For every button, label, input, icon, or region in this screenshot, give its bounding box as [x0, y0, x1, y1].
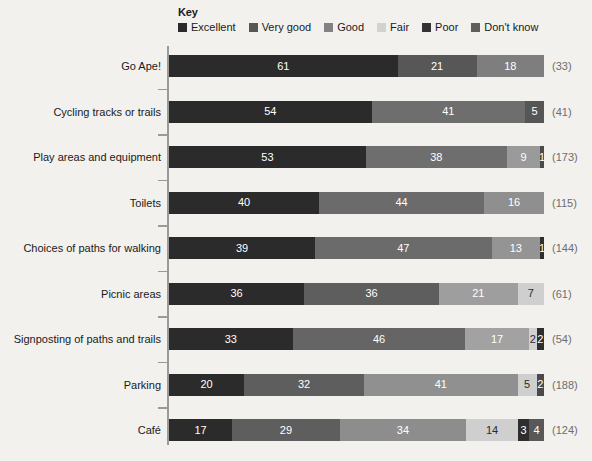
base-count: (173) [552, 151, 578, 163]
base-count: (61) [552, 288, 572, 300]
bar-segment: 36 [169, 283, 304, 305]
bar-segment: 3 [518, 419, 529, 441]
stacked-bar: 404416 [169, 192, 544, 214]
axis-tick [158, 89, 167, 91]
legend-item-label: Excellent [191, 22, 236, 33]
bar-segment-value: 38 [430, 152, 442, 163]
bar-row: Play areas and equipment533891(173) [0, 146, 592, 168]
bar-segment-value: 1 [540, 243, 544, 254]
bar-row: Picnic areas3636217(61) [0, 283, 592, 305]
legend-item-label: Poor [435, 22, 458, 33]
bar-segment-value: 41 [442, 106, 454, 117]
category-label: Signposting of paths and trails [0, 333, 161, 345]
legend-swatch-icon [471, 23, 480, 32]
axis-tick [158, 316, 167, 318]
bar-segment-value: 41 [435, 379, 447, 390]
category-label: Cycling tracks or trails [0, 106, 161, 118]
bar-segment: 53 [169, 146, 366, 168]
bar-segment: 41 [372, 101, 526, 123]
bar-row: Go Ape!612118(33) [0, 55, 592, 77]
bar-segment: 18 [477, 55, 545, 77]
bar-segment: 21 [398, 55, 477, 77]
bar-row: Signposting of paths and trails33461722(… [0, 328, 592, 350]
legend-swatch-icon [249, 23, 258, 32]
bar-segment-value: 16 [508, 197, 520, 208]
bar-segment-value: 20 [200, 379, 212, 390]
bar-segment: 17 [465, 328, 529, 350]
bar-segment: 9 [507, 146, 540, 168]
bar-segment-value: 17 [194, 425, 206, 436]
legend-item-label: Good [337, 22, 364, 33]
bar-segment: 2 [537, 328, 545, 350]
bar-row: Café1729341434(124) [0, 419, 592, 441]
base-count: (54) [552, 333, 572, 345]
bar-segment: 4 [529, 419, 544, 441]
category-label: Play areas and equipment [0, 151, 161, 163]
bar-segment-value: 29 [280, 425, 292, 436]
legend-item-dont_know: Don't know [471, 22, 538, 33]
axis-tick [158, 180, 167, 182]
bar-segment: 5 [525, 101, 544, 123]
stacked-bar: 3947131 [169, 237, 544, 259]
bar-segment: 16 [484, 192, 544, 214]
axis-tick [158, 271, 167, 273]
bar-segment-value: 21 [431, 61, 443, 72]
category-label: Choices of paths for walking [0, 242, 161, 254]
stacked-bar-chart: Key ExcellentVery goodGoodFairPoorDon't … [0, 0, 592, 461]
legend-item-label: Fair [390, 22, 409, 33]
bar-segment-value: 17 [491, 334, 503, 345]
legend-item-fair: Fair [377, 22, 409, 33]
bar-segment-value: 5 [532, 106, 538, 117]
bar-segment-value: 7 [528, 288, 534, 299]
bar-row: Parking20324152(188) [0, 374, 592, 396]
bar-segment: 39 [169, 237, 315, 259]
bar-segment: 14 [466, 419, 518, 441]
base-count: (115) [552, 197, 577, 209]
stacked-bar: 533891 [169, 146, 544, 168]
bar-segment: 40 [169, 192, 319, 214]
base-count: (33) [552, 60, 572, 72]
legend-item-label: Very good [262, 22, 312, 33]
legend-item-good: Good [324, 22, 364, 33]
bar-segment-value: 2 [530, 334, 536, 345]
category-label: Toilets [0, 197, 161, 209]
bar-segment: 17 [169, 419, 232, 441]
bar-segment: 2 [537, 374, 545, 396]
stacked-bar: 3636217 [169, 283, 544, 305]
bar-segment-value: 46 [373, 334, 385, 345]
bar-segment-value: 33 [225, 334, 237, 345]
bar-segment: 7 [518, 283, 544, 305]
bar-segment: 32 [244, 374, 364, 396]
bar-segment: 20 [169, 374, 244, 396]
bar-segment-value: 36 [365, 288, 377, 299]
legend-item-label: Don't know [484, 22, 538, 33]
bar-segment-value: 53 [261, 152, 273, 163]
bar-segment: 36 [304, 283, 439, 305]
axis-tick [158, 134, 167, 136]
bar-segment-value: 2 [537, 334, 543, 345]
base-count: (188) [552, 379, 578, 391]
legend-swatch-icon [422, 23, 431, 32]
category-label: Parking [0, 379, 161, 391]
bar-segment: 5 [518, 374, 537, 396]
bar-segment-value: 44 [395, 197, 407, 208]
bar-segment: 38 [366, 146, 507, 168]
bar-segment-value: 47 [397, 243, 409, 254]
bar-segment: 29 [232, 419, 340, 441]
stacked-bar: 54415 [169, 101, 544, 123]
bar-segment-value: 3 [520, 425, 526, 436]
bar-row: Toilets404416(115) [0, 192, 592, 214]
category-label: Café [0, 424, 161, 436]
bar-segment: 61 [169, 55, 398, 77]
bar-segment: 33 [169, 328, 293, 350]
bar-segment: 47 [315, 237, 491, 259]
axis-tick [158, 407, 167, 409]
legend-item-poor: Poor [422, 22, 458, 33]
bar-segment: 1 [540, 146, 544, 168]
bar-segment: 13 [492, 237, 541, 259]
plot-area: Go Ape!612118(33)Cycling tracks or trail… [0, 46, 592, 458]
axis-tick [158, 362, 167, 364]
legend-item-very_good: Very good [249, 22, 312, 33]
bar-segment-value: 36 [230, 288, 242, 299]
stacked-bar: 612118 [169, 55, 544, 77]
